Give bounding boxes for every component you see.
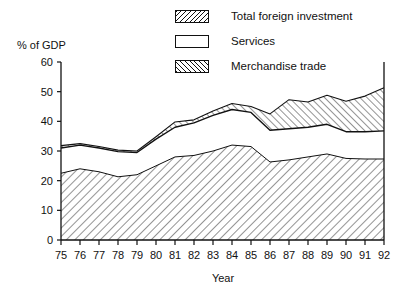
- x-tick-label: 86: [264, 249, 276, 261]
- x-tick-label: 75: [55, 249, 67, 261]
- chart-figure: Total foreign investment Services Mercha…: [0, 0, 410, 294]
- y-tick-label: 50: [41, 86, 53, 98]
- x-tick-label: 85: [245, 249, 257, 261]
- y-tick-label: 10: [41, 204, 53, 216]
- x-tick-label: 82: [188, 249, 200, 261]
- x-tick-label: 81: [169, 249, 181, 261]
- x-axis-title: Year: [0, 272, 410, 284]
- y-tick-label: 40: [41, 115, 53, 127]
- x-tick-label: 87: [283, 249, 295, 261]
- x-tick-label: 84: [226, 249, 238, 261]
- x-tick-label: 92: [378, 249, 390, 261]
- y-tick-label: 0: [47, 234, 53, 246]
- x-tick-label: 83: [207, 249, 219, 261]
- plot-area: 0102030405060757677787980818283848586878…: [0, 0, 410, 294]
- x-tick-label: 80: [150, 249, 162, 261]
- x-tick-label: 89: [321, 249, 333, 261]
- x-tick-label: 79: [131, 249, 143, 261]
- y-tick-label: 30: [41, 145, 53, 157]
- x-tick-label: 78: [112, 249, 124, 261]
- x-tick-label: 77: [93, 249, 105, 261]
- x-tick-label: 90: [340, 249, 352, 261]
- x-tick-label: 88: [302, 249, 314, 261]
- y-tick-label: 60: [41, 56, 53, 68]
- x-axis-title-text: Year: [212, 272, 234, 284]
- y-tick-label: 20: [41, 175, 53, 187]
- x-tick-label: 76: [74, 249, 86, 261]
- x-tick-label: 91: [359, 249, 371, 261]
